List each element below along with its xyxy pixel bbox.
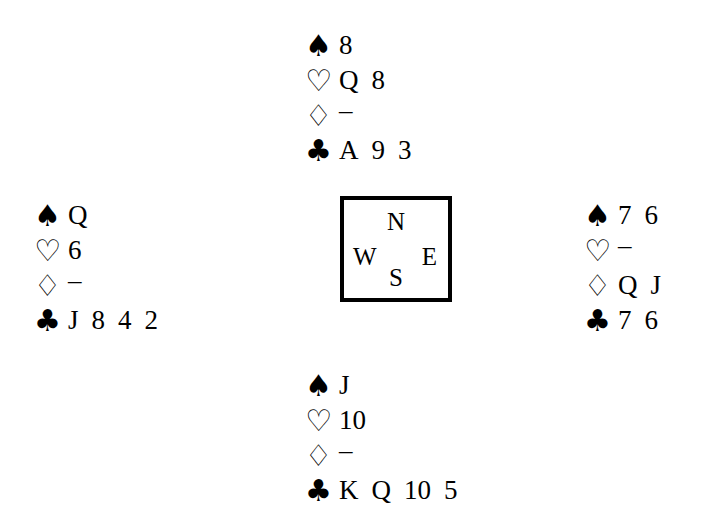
- card-rank: J: [651, 272, 662, 299]
- card-ranks: –: [339, 442, 353, 469]
- card-ranks: J842: [68, 307, 158, 334]
- card-ranks: –: [339, 102, 353, 129]
- card-rank: 10: [404, 477, 431, 504]
- suit-row-diamonds: ♢–: [305, 98, 412, 133]
- card-rank: 10: [339, 407, 366, 434]
- card-ranks: –: [68, 272, 82, 299]
- card-rank: 4: [118, 307, 132, 334]
- card-rank: 8: [339, 32, 353, 59]
- diamonds-icon: ♢: [305, 101, 339, 131]
- suit-row-spades: ♠Q: [34, 198, 158, 233]
- clubs-icon: ♣: [34, 306, 68, 336]
- hearts-icon: ♡: [305, 66, 339, 96]
- void-mark: –: [339, 437, 353, 464]
- card-rank: 9: [372, 137, 386, 164]
- card-rank: 3: [398, 137, 412, 164]
- card-ranks: 76: [618, 307, 658, 334]
- card-rank: 6: [645, 202, 659, 229]
- card-ranks: QJ: [618, 272, 661, 299]
- card-ranks: KQ105: [339, 477, 458, 504]
- suit-row-clubs: ♣J842: [34, 303, 158, 338]
- card-rank: J: [68, 307, 79, 334]
- hand-west: ♠Q♡6♢–♣J842: [34, 198, 158, 338]
- card-rank: 6: [68, 237, 82, 264]
- card-ranks: Q8: [339, 67, 385, 94]
- suit-row-spades: ♠8: [305, 28, 412, 63]
- suit-row-hearts: ♡10: [305, 403, 458, 438]
- spades-icon: ♠: [305, 371, 339, 401]
- hearts-icon: ♡: [34, 236, 68, 266]
- card-rank: 2: [145, 307, 159, 334]
- diamonds-icon: ♢: [584, 271, 618, 301]
- compass-north-label: N: [344, 209, 448, 234]
- hearts-icon: ♡: [305, 406, 339, 436]
- card-ranks: A93: [339, 137, 412, 164]
- suit-row-hearts: ♡6: [34, 233, 158, 268]
- card-rank: Q: [618, 272, 638, 299]
- void-mark: –: [339, 97, 353, 124]
- card-rank: 7: [618, 202, 632, 229]
- hand-south: ♠J♡10♢–♣KQ105: [305, 368, 458, 508]
- card-ranks: J: [339, 372, 350, 399]
- card-rank: J: [339, 372, 350, 399]
- card-rank: 6: [645, 307, 659, 334]
- card-ranks: 76: [618, 202, 658, 229]
- clubs-icon: ♣: [305, 136, 339, 166]
- card-rank: Q: [372, 477, 392, 504]
- suit-row-hearts: ♡–: [584, 233, 661, 268]
- hearts-icon: ♡: [584, 236, 618, 266]
- card-ranks: 6: [68, 237, 82, 264]
- hand-north: ♠8♡Q8♢–♣A93: [305, 28, 412, 168]
- compass-box: N W E S: [340, 196, 452, 302]
- card-rank: 8: [92, 307, 106, 334]
- suit-row-hearts: ♡Q8: [305, 63, 412, 98]
- suit-row-spades: ♠J: [305, 368, 458, 403]
- suit-row-diamonds: ♢–: [34, 268, 158, 303]
- suit-row-spades: ♠76: [584, 198, 661, 233]
- card-rank: 5: [444, 477, 458, 504]
- card-ranks: 8: [339, 32, 353, 59]
- clubs-icon: ♣: [305, 476, 339, 506]
- spades-icon: ♠: [34, 201, 68, 231]
- void-mark: –: [618, 232, 632, 259]
- spades-icon: ♠: [305, 31, 339, 61]
- card-rank: 8: [372, 67, 386, 94]
- card-rank: 7: [618, 307, 632, 334]
- suit-row-clubs: ♣KQ105: [305, 473, 458, 508]
- diamonds-icon: ♢: [34, 271, 68, 301]
- void-mark: –: [68, 267, 82, 294]
- card-ranks: –: [618, 237, 632, 264]
- diamonds-icon: ♢: [305, 441, 339, 471]
- card-ranks: 10: [339, 407, 366, 434]
- suit-row-clubs: ♣A93: [305, 133, 412, 168]
- card-rank: K: [339, 477, 359, 504]
- card-rank: Q: [339, 67, 359, 94]
- suit-row-diamonds: ♢–: [305, 438, 458, 473]
- hand-east: ♠76♡–♢QJ♣76: [584, 198, 661, 338]
- clubs-icon: ♣: [584, 306, 618, 336]
- card-ranks: Q: [68, 202, 88, 229]
- card-rank: A: [339, 137, 359, 164]
- spades-icon: ♠: [584, 201, 618, 231]
- suit-row-diamonds: ♢QJ: [584, 268, 661, 303]
- compass-south-label: S: [344, 265, 448, 290]
- suit-row-clubs: ♣76: [584, 303, 661, 338]
- card-rank: Q: [68, 202, 88, 229]
